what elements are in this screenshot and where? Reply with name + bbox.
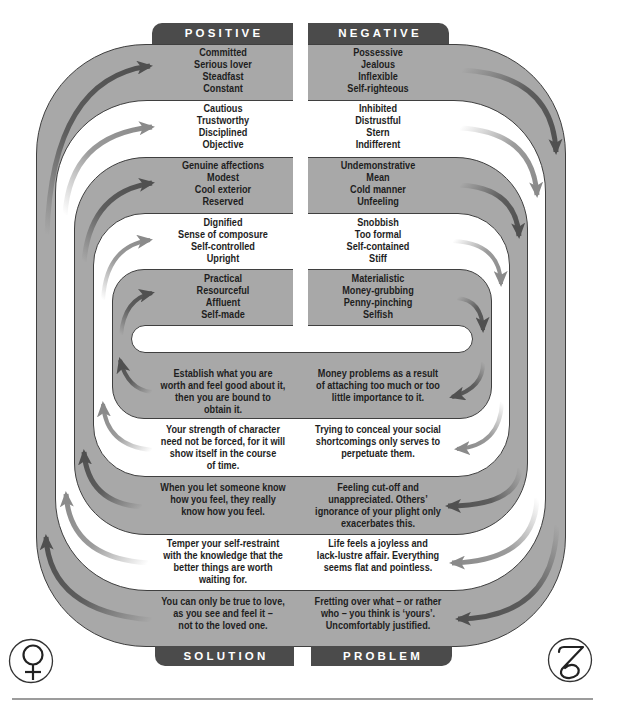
solution-text-band-3: When you let someone know how you feel, … xyxy=(148,481,297,517)
positive-traits-band-4: Dignified Sense of composure Self-contro… xyxy=(148,216,297,264)
problem-text-band-3: Feeling cut-off and unappreciated. Other… xyxy=(303,481,452,529)
venus-symbol-icon xyxy=(8,638,56,686)
problem-text-band-2: Life feels a joyless and lack-lustre aff… xyxy=(303,537,452,573)
positive-traits-band-3: Genuine affections Modest Cool exterior … xyxy=(148,159,297,207)
capricorn-symbol-icon xyxy=(547,637,595,685)
positive-traits-band-5: Practical Resourceful Affluent Self-made xyxy=(148,272,297,320)
solution-text-band-4: Your strength of character need not be f… xyxy=(148,423,297,471)
solution-text-band-5: Establish what you are worth and feel go… xyxy=(148,367,297,415)
personality-cycle-diagram: POSITIVE NEGATIVE SOLUTION PROBLEM xyxy=(0,0,617,704)
problem-text-band-1: Fretting over what – or rather who – you… xyxy=(303,595,452,631)
solution-footer-tab: SOLUTION xyxy=(155,646,294,666)
positive-header-label: POSITIVE xyxy=(185,27,264,39)
negative-traits-band-3: Undemonstrative Mean Cold manner Unfeeli… xyxy=(303,159,452,207)
negative-traits-band-4: Snobbish Too formal Self-contained Stiff xyxy=(303,216,452,264)
negative-traits-band-5: Materialistic Money-grubbing Penny-pinch… xyxy=(303,272,452,320)
negative-header-label: NEGATIVE xyxy=(338,27,422,39)
negative-traits-band-1: Possessive Jealous Inflexible Self-right… xyxy=(303,46,452,94)
problem-footer-label: PROBLEM xyxy=(343,650,423,662)
problem-footer-tab: PROBLEM xyxy=(311,646,452,666)
positive-header-tab: POSITIVE xyxy=(152,23,293,44)
problem-text-band-4: Trying to conceal your social shortcomin… xyxy=(303,423,452,459)
solution-text-band-1: You can only be true to love, as you see… xyxy=(148,595,297,631)
problem-text-band-5: Money problems as a result of attaching … xyxy=(303,367,452,403)
bottom-divider-rule xyxy=(12,698,593,700)
solution-footer-label: SOLUTION xyxy=(183,650,268,662)
negative-header-tab: NEGATIVE xyxy=(308,23,449,44)
positive-traits-band-1: Committed Serious lover Steadfast Consta… xyxy=(148,46,297,94)
negative-traits-band-2: Inhibited Distrustful Stern Indifferent xyxy=(303,102,452,150)
solution-text-band-2: Temper your self-restraint with the know… xyxy=(148,537,297,585)
positive-traits-band-2: Cautious Trustworthy Disciplined Objecti… xyxy=(148,102,297,150)
center-pill xyxy=(131,325,473,353)
